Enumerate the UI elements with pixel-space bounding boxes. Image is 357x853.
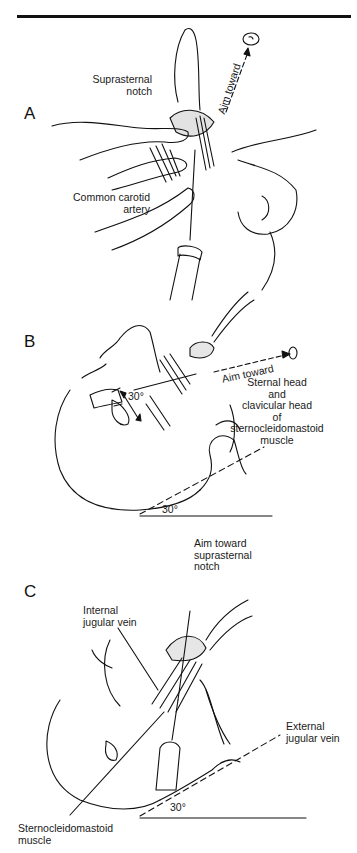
label-line: sternocleidomastoid (222, 423, 332, 435)
label-angle-needle: 30° (128, 391, 144, 403)
label-line: Internal (83, 605, 137, 617)
label-line: notch (194, 561, 252, 573)
label-sternal-clavicular-head: Sternal head and clavicular head of ster… (222, 377, 332, 446)
label-line: notch (86, 86, 152, 98)
label-suprasternal-notch: Suprasternal notch (86, 74, 152, 97)
label-line: Common carotid (64, 192, 150, 204)
label-sternocleidomastoid-muscle: Sternocleidomastoid muscle (18, 823, 113, 846)
label-line: jugular vein (83, 617, 137, 629)
label-angle-table-c: 30° (170, 802, 186, 814)
panel-a-drawing (52, 28, 316, 300)
panel-a-letter: A (24, 104, 35, 124)
label-line: Sternal head (222, 377, 332, 389)
label-line: clavicular head (222, 400, 332, 412)
label-line: muscle (222, 435, 332, 447)
panel-b-letter: B (24, 332, 35, 352)
label-line: Suprasternal (86, 74, 152, 86)
label-internal-jugular-vein: Internal jugular vein (83, 605, 137, 628)
label-aim-toward-suprasternal-notch: Aim toward suprasternal notch (194, 538, 252, 573)
label-line: External (286, 721, 340, 733)
label-external-jugular-vein: External jugular vein (286, 721, 340, 744)
label-common-carotid-artery: Common carotid artery (64, 192, 150, 215)
label-line: muscle (18, 835, 113, 847)
label-line: Aim toward (194, 538, 252, 550)
panel-c-letter: C (24, 582, 36, 602)
label-line: artery (64, 204, 150, 216)
label-angle-table-b: 30° (162, 504, 178, 516)
label-line: Sternocleidomastoid (18, 823, 113, 835)
label-line: jugular vein (286, 733, 340, 745)
panel-c-drawing (47, 600, 306, 818)
